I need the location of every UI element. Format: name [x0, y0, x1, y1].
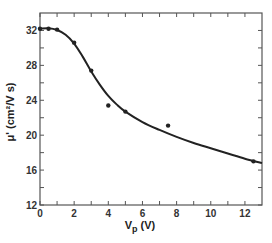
y-tick-label: 12 — [26, 200, 38, 211]
data-point — [89, 68, 93, 72]
data-point — [166, 123, 170, 127]
y-tick-label: 16 — [26, 165, 38, 176]
x-tick-label: 2 — [71, 208, 77, 219]
data-point — [251, 159, 255, 163]
data-points — [38, 27, 256, 164]
x-tick-label: 10 — [205, 208, 217, 219]
x-axis-title: Vp (V) — [125, 219, 156, 234]
chart: 024681012 121620242832 Vp (V) μ' (cm²/V … — [0, 0, 272, 243]
data-point — [55, 27, 59, 31]
y-tick-labels: 121620242832 — [26, 25, 38, 211]
y-tick-label: 20 — [26, 130, 38, 141]
x-tick-label: 4 — [106, 208, 112, 219]
x-tick-label: 6 — [140, 208, 146, 219]
y-tick-label: 32 — [26, 25, 38, 36]
data-point — [38, 27, 42, 31]
data-point — [123, 109, 127, 113]
x-tick-labels: 024681012 — [37, 208, 251, 219]
data-point — [72, 40, 76, 44]
y-axis-title: μ' (cm²/V s) — [4, 82, 16, 141]
y-tick-label: 28 — [26, 60, 38, 71]
fit-curve — [40, 28, 262, 163]
x-tick-label: 8 — [174, 208, 180, 219]
data-point — [106, 103, 110, 107]
y-tick-label: 24 — [26, 95, 38, 106]
x-tick-label: 12 — [239, 208, 251, 219]
x-tick-label: 0 — [37, 208, 43, 219]
data-point — [46, 27, 50, 31]
